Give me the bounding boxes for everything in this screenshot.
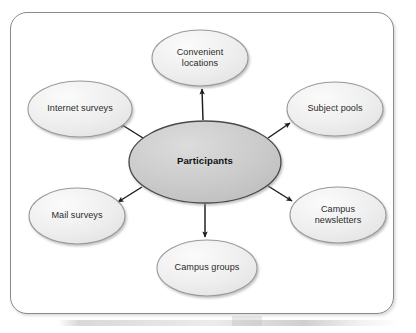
node-ellipse-internet-surveys[interactable] <box>28 81 132 137</box>
center-ellipse-participants[interactable] <box>129 121 281 203</box>
node-ellipse-subject-pools[interactable] <box>287 82 383 136</box>
arrow-to-convenient-locations <box>202 89 203 120</box>
arrow-to-subject-pools <box>268 123 290 138</box>
node-ellipse-convenient-locations[interactable] <box>152 30 248 86</box>
node-ellipse-mail-surveys[interactable] <box>29 188 125 244</box>
arrow-to-mail-surveys <box>118 187 142 202</box>
node-ellipse-campus-newsletters[interactable] <box>290 187 386 243</box>
diagram-shapes-layer <box>0 0 416 333</box>
node-ellipse-campus-groups[interactable] <box>157 240 257 296</box>
arrow-to-campus-newsletters <box>268 186 292 201</box>
diagram-canvas: Participants Convenient locations Subjec… <box>0 0 416 333</box>
